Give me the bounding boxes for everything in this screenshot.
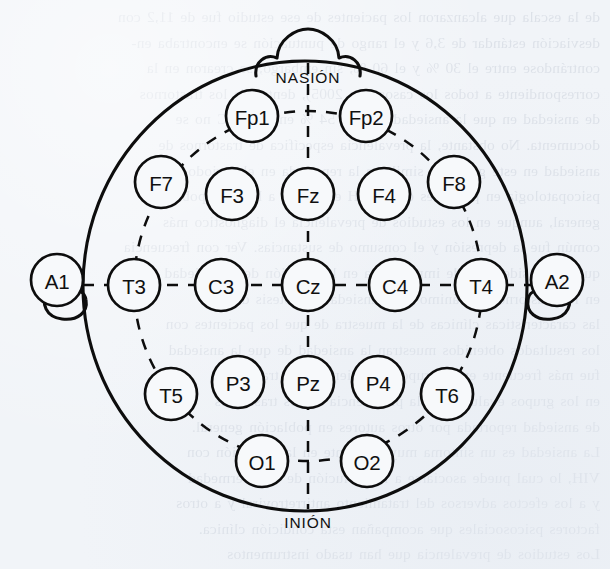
electrode-a1[interactable]: A1 [31,254,83,306]
electrode-label-p3: P3 [226,372,251,395]
electrode-fp2[interactable]: Fp2 [340,90,392,142]
electrode-label-o1: O1 [249,451,276,474]
electrode-label-f8: F8 [442,172,466,195]
inion-label: INIÓN [284,514,332,531]
electrode-cz[interactable]: Cz [282,259,334,311]
electrode-label-t3: T3 [122,275,146,298]
electrode-a2[interactable]: A2 [531,254,583,306]
electrode-label-f4: F4 [372,184,396,207]
electrode-f3[interactable]: F3 [206,168,258,220]
electrode-fz[interactable]: Fz [282,168,334,220]
nasion-label: NASIÓN [276,69,341,86]
electrode-label-p4: P4 [366,372,391,395]
electrode-label-fp2: Fp2 [349,106,384,129]
electrode-o2[interactable]: O2 [341,435,393,487]
electrode-c4[interactable]: C4 [369,259,421,311]
electrode-label-t5: T5 [159,384,183,407]
electrode-label-o2: O2 [354,451,381,474]
electrode-p3[interactable]: P3 [212,356,264,408]
electrode-fp1[interactable]: Fp1 [226,90,278,142]
electrode-label-f7: F7 [149,172,173,195]
electrode-label-a1: A1 [45,270,70,293]
scanned-figure-page: de la escala que alcanzaron los paciente… [0,0,610,569]
eeg-head-diagram: Fp1Fp2F7F3FzF4F8A1T3C3CzC4T4A2T5P3PzP4T6… [0,0,610,569]
electrode-label-fp1: Fp1 [235,106,270,129]
electrode-f7[interactable]: F7 [135,156,187,208]
electrode-o1[interactable]: O1 [236,435,288,487]
electrode-label-t4: T4 [469,275,493,298]
electrode-label-pz: Pz [296,372,320,395]
electrode-label-cz: Cz [296,275,321,298]
electrode-label-c3: C3 [208,275,234,298]
electrode-t3[interactable]: T3 [108,259,160,311]
electrode-pz[interactable]: Pz [282,356,334,408]
electrode-p4[interactable]: P4 [352,356,404,408]
electrode-f8[interactable]: F8 [428,156,480,208]
electrode-label-a2: A2 [545,270,570,293]
electrode-t6[interactable]: T6 [421,368,473,420]
electrode-c3[interactable]: C3 [195,259,247,311]
electrode-label-c4: C4 [382,275,408,298]
electrode-t4[interactable]: T4 [455,259,507,311]
electrode-label-t6: T6 [435,384,459,407]
electrode-t5[interactable]: T5 [145,368,197,420]
electrode-f4[interactable]: F4 [358,168,410,220]
electrode-label-f3: F3 [220,184,244,207]
electrode-label-fz: Fz [297,184,319,207]
